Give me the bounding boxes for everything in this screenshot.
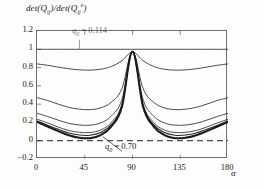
annotation-top-value: = 0.114: [81, 25, 107, 35]
curves-svg: [37, 31, 228, 159]
plot-area: [36, 30, 227, 158]
y-tick-label: 1: [0, 42, 33, 52]
annotation-q0-bottom: q0 = 0.70: [105, 141, 136, 153]
y-axis-title-sub2: ij: [77, 9, 81, 15]
annotation-bottom-value: = 0.70: [114, 141, 136, 151]
y-tick-label: 0.2: [0, 115, 33, 125]
y-tick-label: −0.2: [0, 152, 33, 162]
curve-q0-0-50: [37, 52, 228, 125]
annotation-top-sub: 0: [76, 31, 79, 37]
annotation-bottom-sub: 0: [109, 147, 112, 153]
x-tick-label: 45: [69, 162, 99, 172]
x-tick-label: 0: [21, 162, 51, 172]
curve-q0-0-114: [37, 52, 228, 70]
curve-q0-0-60: [37, 52, 228, 133]
y-axis-title-close: ): [84, 3, 87, 13]
y-axis-title: det(Qij)/det(Qije): [26, 2, 87, 15]
y-tick-label: 1.2: [0, 24, 33, 34]
curve-q0-0-35: [37, 52, 228, 110]
x-tick-label: 135: [164, 162, 194, 172]
y-tick-label: 0.6: [0, 79, 33, 89]
y-axis-title-mid: )/det(Q: [51, 3, 78, 13]
x-tick-label: 90: [117, 162, 147, 172]
y-tick-label: 0: [0, 134, 33, 144]
y-tick-label: 0.8: [0, 61, 33, 71]
x-tick-label: 180: [212, 162, 242, 172]
curve-q0-0-70: [37, 52, 228, 139]
annotation-q0-top: q0 = 0.114: [72, 25, 107, 37]
figure-canvas: det(Qij)/det(Qije) 1.210.80.60.40.20−0.2…: [0, 0, 264, 189]
x-axis-title: α: [231, 168, 236, 178]
y-axis-title-det1: det(Q: [26, 3, 47, 13]
y-tick-label: 0.4: [0, 97, 33, 107]
